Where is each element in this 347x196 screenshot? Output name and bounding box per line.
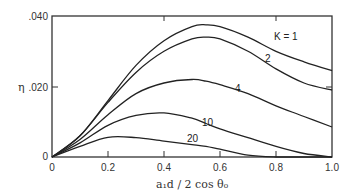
y-tick-label: .020 bbox=[29, 82, 49, 93]
curve-label-k1: K = 1 bbox=[274, 31, 298, 42]
y-tick-label: 0 bbox=[42, 151, 48, 162]
x-tick-label: 0 bbox=[49, 162, 55, 173]
chart: .040 .020 0 η 0 0.2 0.4 0.6 0.8 1.0 a₁d … bbox=[0, 0, 347, 196]
x-tick-label: 1.0 bbox=[325, 162, 339, 173]
curve-label-k2: 2 bbox=[265, 53, 271, 64]
x-axis-title: a₁d / 2 cos θ₀ bbox=[156, 178, 229, 191]
curve-label-k20: 20 bbox=[187, 133, 199, 144]
y-axis-title: η bbox=[18, 81, 25, 94]
x-tick-label: 0.2 bbox=[101, 162, 115, 173]
x-tick-label: 0.4 bbox=[157, 162, 171, 173]
y-tick-label: .040 bbox=[29, 11, 49, 22]
curve-label-k4: 4 bbox=[235, 83, 241, 94]
x-axis: 0 0.2 0.4 0.6 0.8 1.0 a₁d / 2 cos θ₀ bbox=[49, 16, 339, 191]
x-tick-label: 0.8 bbox=[269, 162, 283, 173]
x-tick-label: 0.6 bbox=[213, 162, 227, 173]
curve-label-k10: 10 bbox=[202, 117, 214, 128]
